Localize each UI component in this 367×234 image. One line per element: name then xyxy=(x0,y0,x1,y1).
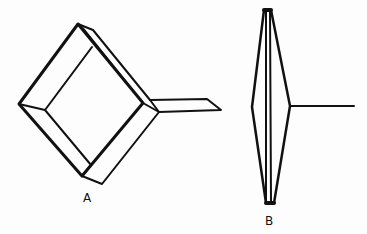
diagram-canvas: A B xyxy=(0,0,367,234)
figure-b xyxy=(252,10,354,203)
figure-a xyxy=(19,24,221,184)
frame-a-depth-bottom xyxy=(82,112,159,184)
label-a: A xyxy=(83,191,92,205)
frame-a-handle xyxy=(150,99,221,112)
frame-a-inner-left-top xyxy=(45,47,92,165)
label-b: B xyxy=(265,214,273,228)
